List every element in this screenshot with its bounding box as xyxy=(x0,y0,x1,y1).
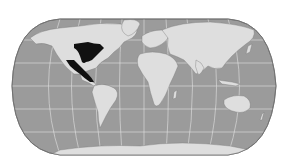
world-map xyxy=(0,0,286,164)
